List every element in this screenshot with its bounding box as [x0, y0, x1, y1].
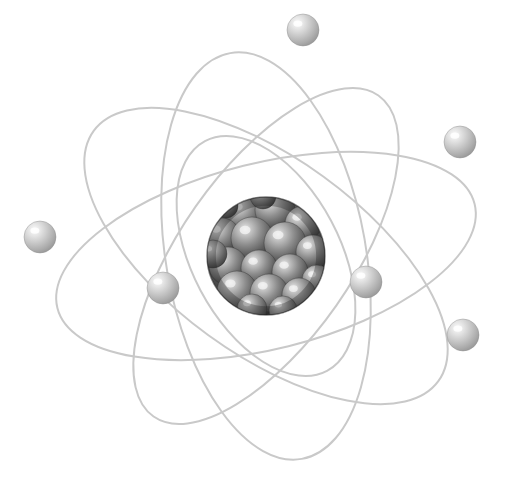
nucleon-highlight-13 — [258, 282, 268, 290]
nucleon-highlight-5 — [240, 226, 251, 234]
atom-illustration: Atom Model — [0, 0, 508, 494]
nucleon-highlight-7 — [303, 242, 312, 249]
electron-right-lower — [447, 319, 479, 351]
nucleon-highlight-14 — [289, 285, 298, 292]
electron-left — [24, 221, 56, 253]
electron-inner-right-highlight — [356, 272, 365, 278]
nucleon-highlight-10 — [279, 262, 288, 269]
nucleon-highlight-6 — [273, 231, 284, 239]
electron-top-sphere — [287, 14, 319, 46]
atom-canvas — [0, 0, 508, 494]
electron-inner-right-sphere — [350, 266, 382, 298]
electron-inner-right — [350, 266, 382, 298]
electron-right-lower-sphere — [447, 319, 479, 351]
electron-left-highlight — [30, 227, 39, 233]
nucleon-highlight-9 — [248, 258, 257, 265]
electron-inner-left — [147, 272, 179, 304]
electron-right-upper-sphere — [444, 126, 476, 158]
electron-right-upper-highlight — [450, 132, 459, 138]
electron-top — [287, 14, 319, 46]
nucleon-highlight-12 — [225, 279, 235, 287]
electron-inner-left-highlight — [153, 278, 162, 284]
electron-top-highlight — [293, 20, 302, 26]
electron-left-sphere — [24, 221, 56, 253]
electron-right-upper — [444, 126, 476, 158]
electron-inner-left-sphere — [147, 272, 179, 304]
electron-right-lower-highlight — [453, 325, 462, 331]
